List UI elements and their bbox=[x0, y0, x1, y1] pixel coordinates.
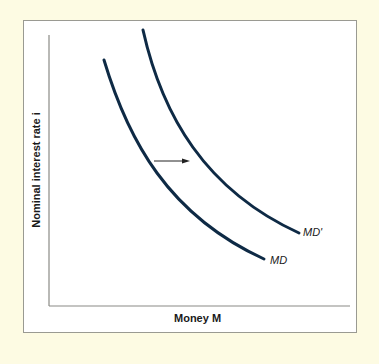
y-axis-label: Nominal interest rate i bbox=[30, 112, 42, 228]
x-axis-label: Money M bbox=[174, 312, 221, 324]
md-label: MD bbox=[270, 254, 287, 266]
md-prime-label: MD' bbox=[303, 226, 322, 238]
md-prime-curve bbox=[143, 30, 299, 233]
arrowhead-icon bbox=[182, 159, 190, 164]
diagram-canvas bbox=[0, 0, 379, 364]
